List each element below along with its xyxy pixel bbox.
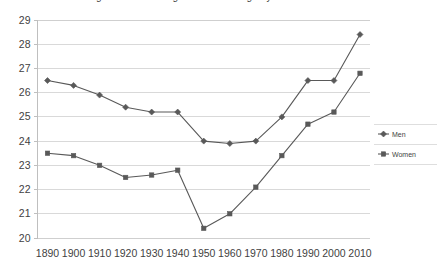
data-point-marker [45,151,49,155]
y-tick-label: 29 [19,14,31,26]
y-tick-label: 25 [19,110,31,122]
series-layer [45,32,364,231]
x-tick-label: 1980 [270,247,294,259]
x-tick-label: 1990 [296,247,320,259]
data-point-marker [123,104,129,110]
data-point-marker [149,109,155,115]
x-tick-label: 1910 [88,247,112,259]
y-tick-label: 24 [19,135,31,147]
data-point-marker [97,163,101,167]
data-point-marker [45,78,51,84]
data-point-marker [176,168,180,172]
x-tick-label: 1930 [140,247,164,259]
y-tick-labels-group: 20212223242526272829 [19,14,31,244]
data-point-marker [71,82,77,88]
data-point-marker [358,71,362,75]
gridlines-group [38,20,371,238]
y-tick-label: 27 [19,62,31,74]
y-tick-label: 21 [19,207,31,219]
y-tick-label: 22 [19,183,31,195]
series-men [45,32,364,147]
y-tick-marks-group [34,20,38,238]
legend-item-women[interactable]: Women [378,151,416,158]
x-tick-label: 2000 [322,247,346,259]
legend-label: Men [392,131,406,138]
x-tick-label: 1970 [244,247,268,259]
data-point-marker [381,131,387,137]
x-tick-label: 1940 [166,247,190,259]
x-tick-label: 1960 [218,247,242,259]
data-point-marker [71,153,75,157]
x-tick-label: 1950 [192,247,216,259]
axis-lines-group [38,20,438,238]
chart-plot: 20212223242526272829 1890190019101920193… [0,0,443,266]
legend-item-men[interactable]: Men [378,131,406,138]
x-tick-label: 1900 [62,247,86,259]
x-tick-label: 2010 [348,247,372,259]
data-point-marker [332,110,336,114]
chart-container: Figure 1. Median age at first marriage b… [0,0,443,266]
legend-label: Women [392,151,416,158]
data-point-marker [357,32,363,38]
data-point-marker [202,226,206,230]
x-tick-label: 1890 [36,247,60,259]
y-tick-label: 28 [19,38,31,50]
y-tick-label: 26 [19,86,31,98]
y-tick-label: 23 [19,159,31,171]
series-line [48,35,361,144]
x-tick-label: 1920 [114,247,138,259]
data-point-marker [306,122,310,126]
data-point-marker [254,185,258,189]
series-women [45,71,362,230]
y-tick-label: 20 [19,232,31,244]
data-point-marker [381,152,385,156]
data-point-marker [149,173,153,177]
data-point-marker [123,175,127,179]
series-line [48,73,361,228]
x-tick-labels-group: 1890190019101920193019401950196019701980… [36,247,372,259]
data-point-marker [331,78,337,84]
data-point-marker [280,153,284,157]
data-point-marker [228,212,232,216]
